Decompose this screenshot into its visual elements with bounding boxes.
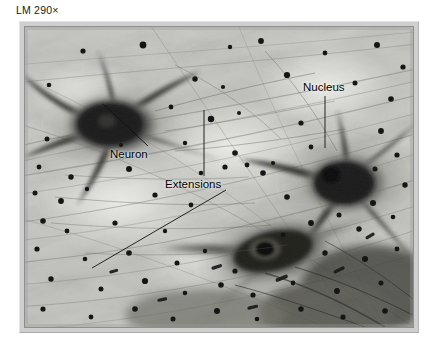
annotation-label-neuron: Neuron bbox=[110, 148, 148, 161]
micrograph-frame bbox=[19, 21, 419, 333]
figure-root: LM 290× bbox=[0, 0, 433, 354]
micrograph-inner-border bbox=[24, 26, 414, 328]
micrograph-image bbox=[25, 27, 413, 327]
micrograph-plate bbox=[25, 27, 413, 327]
magnification-caption: LM 290× bbox=[16, 3, 59, 17]
annotation-label-nucleus: Nucleus bbox=[303, 81, 345, 94]
annotation-label-extensions: Extensions bbox=[165, 178, 221, 191]
